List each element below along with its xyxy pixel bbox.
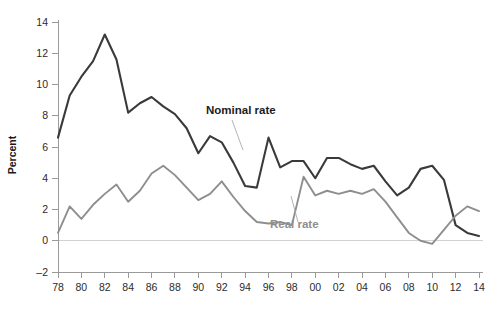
x-tick-label: 06 [380, 281, 392, 293]
y-tick-label: 8 [42, 109, 48, 121]
y-tick-label: 12 [36, 47, 48, 59]
x-tick-label: 98 [286, 281, 298, 293]
x-tick-label: 04 [356, 281, 368, 293]
x-tick-label: 94 [239, 281, 251, 293]
real-rate-annotation: Real rate [270, 218, 319, 230]
x-tick-label: 00 [309, 281, 321, 293]
x-tick-label: 84 [122, 281, 134, 293]
chart-figure: –202468101214788082848688909294969800020… [0, 0, 500, 310]
series-line-nominal-rate [58, 35, 479, 237]
x-tick-label: 08 [403, 281, 415, 293]
x-tick-label: 78 [52, 281, 64, 293]
x-tick-label: 88 [169, 281, 181, 293]
x-tick-label: 02 [333, 281, 345, 293]
y-tick-label: –2 [36, 266, 48, 278]
x-tick-label: 80 [76, 281, 88, 293]
y-tick-label: 4 [42, 172, 48, 184]
x-tick-label: 92 [216, 281, 228, 293]
y-tick-label: 6 [42, 141, 48, 153]
y-axis-title: Percent [6, 135, 18, 174]
x-tick-label: 96 [263, 281, 275, 293]
nominal-leader-line [232, 120, 243, 150]
y-tick-label: 14 [36, 16, 48, 28]
x-tick-label: 10 [426, 281, 438, 293]
x-tick-label: 86 [146, 281, 158, 293]
line-chart-canvas: –202468101214788082848688909294969800020… [0, 0, 500, 310]
y-tick-label: 2 [42, 203, 48, 215]
y-tick-label: 10 [36, 78, 48, 90]
x-tick-label: 90 [192, 281, 204, 293]
y-tick-label: 0 [42, 234, 48, 246]
x-tick-label: 14 [473, 281, 485, 293]
x-tick-label: 12 [450, 281, 462, 293]
nominal-rate-annotation: Nominal rate [206, 104, 276, 116]
x-tick-label: 82 [99, 281, 111, 293]
